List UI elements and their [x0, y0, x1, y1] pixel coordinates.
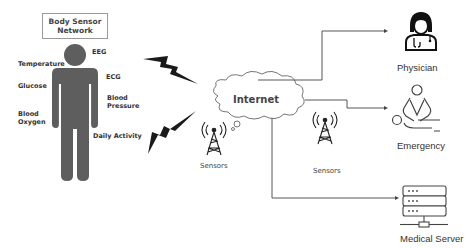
label-temperature: Temperature — [18, 60, 65, 68]
label-glucose: Glucose — [18, 82, 47, 90]
sensor-tower-right-icon — [313, 112, 337, 144]
label-blood-pressure-line2: Pressure — [107, 102, 139, 110]
label-blood-oxygen-line2: Oxygen — [18, 118, 46, 126]
label-blood-pressure-line1: Blood — [107, 94, 139, 102]
sensor-right-label: Sensors — [313, 167, 341, 175]
label-blood-oxygen: Blood Oxygen — [18, 110, 46, 126]
label-blood-pressure: Blood Pressure — [107, 94, 139, 110]
label-eeg: EEG — [92, 48, 106, 56]
diagram-canvas — [0, 0, 476, 248]
sensor-tower-left-icon — [202, 122, 226, 155]
emergency-cpr-icon — [393, 85, 441, 131]
label-blood-oxygen-line1: Blood — [18, 110, 46, 118]
label-daily-activity: Daily Activity — [93, 132, 142, 140]
label-ecg: ECG — [106, 73, 121, 81]
physician-label: Physician — [397, 62, 438, 73]
emergency-label: Emergency — [397, 140, 445, 151]
internet-label: Internet — [233, 94, 279, 105]
medical-server-icon — [400, 186, 448, 227]
medical-server-label: Medical Server — [400, 233, 463, 244]
sensor-left-label: Sensors — [200, 162, 228, 170]
wireless-signal-bolt-upper-icon — [143, 56, 198, 84]
physician-icon — [406, 12, 436, 50]
wireless-signal-bolt-lower-icon — [148, 111, 196, 154]
